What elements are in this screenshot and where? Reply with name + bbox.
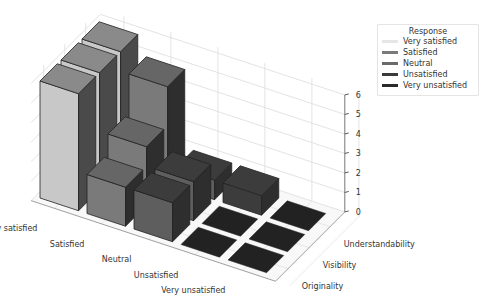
z-tick [345, 94, 349, 95]
x-tick-label: Unsatisfied [134, 271, 179, 280]
legend-label: Satisfied [403, 48, 438, 57]
z-tick [345, 191, 349, 192]
y-tick-label: Originality [302, 282, 344, 291]
z-tick [345, 113, 349, 114]
legend-title: Response [378, 27, 478, 36]
legend-label: Very unsatisfied [403, 81, 467, 90]
z-tick-label: 0 [356, 208, 361, 217]
z-tick-label: 6 [356, 91, 361, 100]
z-tick-label: 2 [356, 169, 361, 178]
legend-item-unsatisfied: Unsatisfied [382, 69, 478, 80]
z-tick-label: 5 [356, 110, 361, 119]
z-tick-label: 4 [356, 130, 361, 139]
legend-swatch [382, 51, 398, 54]
legend-label: Unsatisfied [403, 70, 448, 79]
legend: Response Very satisfied Satisfied Neutra… [377, 24, 479, 96]
x-tick-label: Satisfied [50, 240, 85, 249]
bar-front-face [40, 81, 79, 211]
y-tick-label: Visibility [323, 261, 357, 270]
legend-label: Very satisfied [403, 37, 457, 46]
legend-label: Neutral [403, 59, 433, 68]
z-tick-label: 1 [356, 188, 361, 197]
z-tick [345, 152, 349, 153]
x-tick-label: Neutral [102, 255, 132, 264]
legend-item-very-unsatisfied: Very unsatisfied [382, 80, 478, 91]
z-tick-label: 3 [356, 149, 361, 158]
legend-swatch [382, 73, 398, 76]
legend-swatch [382, 40, 398, 43]
z-tick [345, 133, 349, 134]
z-tick [345, 211, 349, 212]
legend-swatch [382, 84, 398, 87]
legend-swatch [382, 62, 398, 65]
x-tick-label: Very unsatisfied [161, 286, 225, 295]
z-tick [345, 172, 349, 173]
legend-item-satisfied: Satisfied [382, 47, 478, 58]
y-tick-label: Understandability [344, 240, 415, 249]
legend-item-very-satisfied: Very satisfied [382, 36, 478, 47]
x-tick-label: Very satisfied [0, 224, 37, 233]
legend-item-neutral: Neutral [382, 58, 478, 69]
